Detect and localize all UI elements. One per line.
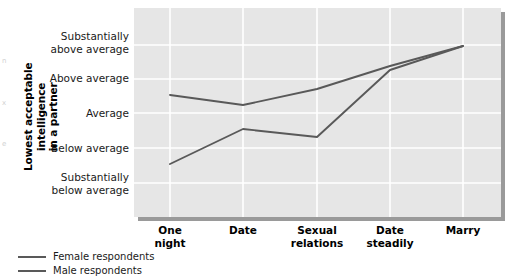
- x-tick-label-line1: Marry: [446, 224, 481, 236]
- y-tick-label-line1: Substantially: [61, 171, 129, 183]
- plot-area: [134, 8, 501, 217]
- y-tick-label: Average: [33, 107, 129, 120]
- plot-svg: [134, 8, 501, 217]
- x-tick-label-line2: relations: [291, 237, 344, 249]
- legend-item-label: Male respondents: [53, 265, 142, 277]
- y-tick-label-line1: Substantially: [61, 30, 129, 42]
- chart-legend: Female respondents Male respondents: [18, 250, 218, 278]
- y-axis-tick-labels: Substantially above average Above averag…: [32, 0, 129, 229]
- page-bleed-fragment: e: [2, 140, 7, 148]
- y-tick-label: Substantially below average: [33, 171, 129, 196]
- legend-line-swatch-icon: [18, 270, 46, 272]
- chart-figure: n x e Lowest acceptable intelligence in …: [0, 0, 517, 279]
- y-tick-label-line2: below average: [52, 184, 129, 196]
- x-tick-label: Marry: [418, 224, 508, 237]
- page-bleed-fragment: x: [2, 99, 6, 107]
- y-tick-label-line1: Average: [86, 107, 129, 119]
- x-tick-label-line1: Date: [376, 224, 404, 236]
- legend-item-label: Female respondents: [53, 251, 154, 263]
- y-tick-label-line2: above average: [50, 43, 129, 55]
- legend-item-female: Female respondents: [18, 250, 218, 264]
- x-tick-label-line2: steadily: [366, 237, 413, 249]
- x-tick-label-line1: One: [158, 224, 182, 236]
- legend-item-male: Male respondents: [18, 264, 218, 278]
- y-tick-label-line1: Below average: [51, 142, 129, 154]
- y-tick-label: Below average: [33, 142, 129, 155]
- x-tick-label-line1: Sexual: [297, 224, 337, 236]
- page-bleed-fragment: n: [2, 57, 7, 65]
- x-tick-label-line2: night: [154, 237, 185, 249]
- y-tick-label: Substantially above average: [33, 30, 129, 55]
- legend-line-swatch-icon: [18, 256, 46, 258]
- y-tick-label: Above average: [33, 72, 129, 85]
- x-tick-label-line1: Date: [229, 224, 257, 236]
- y-tick-label-line1: Above average: [50, 72, 129, 84]
